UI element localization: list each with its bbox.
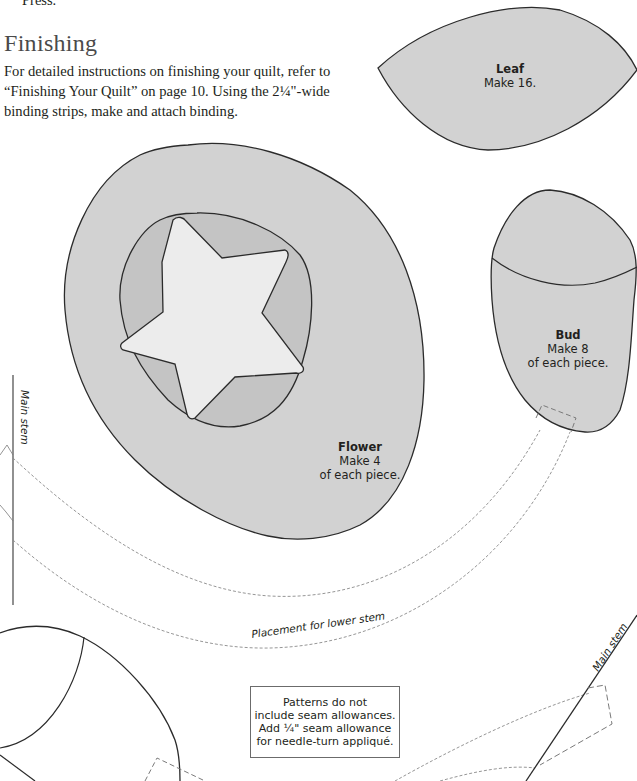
stem-notch-top	[0, 445, 13, 455]
lower-stem-to-main-lower	[440, 767, 535, 781]
bud-instruction-1: Make 8	[518, 342, 618, 356]
leaf-label: Leaf Make 16.	[460, 62, 560, 90]
leaf-name: Leaf	[460, 62, 560, 76]
bud-instruction-2: of each piece.	[518, 356, 618, 370]
note-line-3: Add ¼" seam allowance	[254, 722, 395, 735]
lower-flower-edge	[0, 755, 35, 781]
lower-flower-inner-seam	[0, 637, 84, 748]
lower-flower-stem-tab	[145, 758, 205, 781]
lower-stem-label: Placement for lower stem	[251, 609, 386, 640]
flower-instruction-2: of each piece.	[310, 468, 410, 482]
bud-name: Bud	[518, 328, 618, 342]
leaf-instruction: Make 16.	[460, 76, 560, 90]
seam-allowance-note: Patterns do not include seam allowances.…	[250, 686, 400, 758]
note-line-1: Patterns do not	[254, 696, 395, 709]
lower-stem-to-main-upper	[395, 693, 590, 781]
pattern-diagram: Main stem Placement for lower stem Main …	[0, 0, 637, 781]
note-line-2: include seam allowances.	[254, 709, 395, 722]
flower-label: Flower Make 4 of each piece.	[310, 440, 410, 482]
main-stem-left-label: Main stem	[19, 390, 31, 445]
bud-pattern	[491, 190, 636, 432]
bud-label: Bud Make 8 of each piece.	[518, 328, 618, 370]
stem-notch-bottom	[0, 505, 13, 521]
main-stem-right-label: Main stem	[590, 621, 630, 673]
note-line-4: for needle-turn appliqué.	[254, 735, 395, 748]
flower-name: Flower	[310, 440, 410, 454]
flower-instruction-1: Make 4	[310, 454, 410, 468]
main-stem-right-tab	[540, 685, 612, 765]
lower-flower-outline	[0, 626, 180, 781]
